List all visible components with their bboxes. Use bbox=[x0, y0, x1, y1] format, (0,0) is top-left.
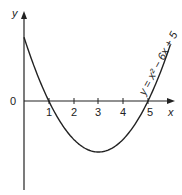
y-axis-arrow-icon bbox=[21, 11, 27, 19]
x-axis-arrow-icon bbox=[167, 98, 175, 104]
y-axis-label: y bbox=[11, 7, 19, 19]
x-tick-label-4: 4 bbox=[120, 106, 126, 118]
x-tick-label-5: 5 bbox=[147, 106, 153, 118]
x-tick-label-2: 2 bbox=[71, 106, 77, 118]
parabola-chart: y x 0 1 2 3 4 5 y = x² − 6x + 5 bbox=[0, 0, 182, 195]
x-axis-label: x bbox=[167, 106, 174, 118]
origin-label: 0 bbox=[10, 95, 16, 107]
x-tick-label-1: 1 bbox=[46, 106, 52, 118]
parabola-curve bbox=[24, 37, 170, 152]
x-tick-label-3: 3 bbox=[95, 106, 101, 118]
equation-label: y = x² − 6x + 5 bbox=[136, 29, 180, 98]
